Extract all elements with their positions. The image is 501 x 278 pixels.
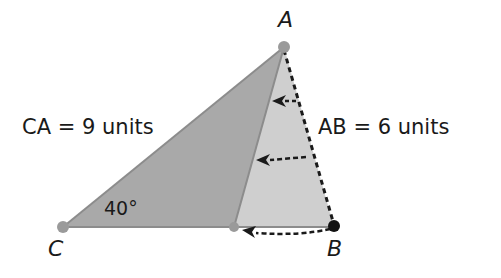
label-ca-length: CA = 9 units xyxy=(22,115,154,139)
label-angle-c: 40° xyxy=(104,197,138,219)
point-b-prime xyxy=(229,222,239,232)
vertex-label-c: C xyxy=(48,236,64,261)
vertex-label-b: B xyxy=(327,236,342,261)
point-a xyxy=(278,41,290,53)
vertex-label-a: A xyxy=(276,7,293,32)
point-b xyxy=(328,220,340,232)
triangle-diagram: A B C CA = 9 units AB = 6 units 40° xyxy=(0,0,501,278)
label-ab-length: AB = 6 units xyxy=(318,115,449,139)
point-c xyxy=(57,221,69,233)
